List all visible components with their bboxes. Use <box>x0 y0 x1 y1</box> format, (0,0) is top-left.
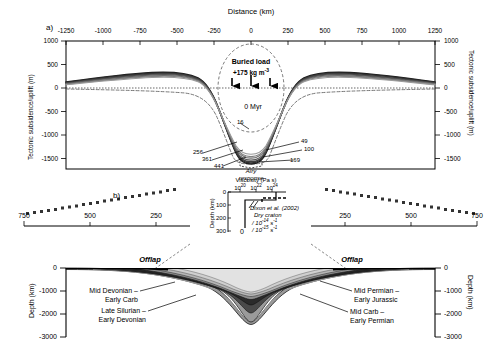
y-tick-label-left: -1500 <box>41 156 58 163</box>
y-tick-label-left: -500 <box>45 109 58 116</box>
inset-x-tick: 1024 <box>266 184 278 191</box>
curve-16myr <box>66 77 435 154</box>
inset-y-axis-title: Depth (km) <box>209 198 215 228</box>
unit-label-mid-carb-l2: Early Permian <box>350 317 394 324</box>
curve-361myr <box>66 73 435 163</box>
rate-unit-exp: -1 <box>273 225 277 230</box>
y-tick-label-left: 0 <box>54 85 58 92</box>
y-tick-label-left: 1000 <box>44 38 58 45</box>
time-label-361: 361 <box>202 156 212 162</box>
x-tick-label: -250 <box>207 28 220 35</box>
y-axis-title-right: Tectonic subsidence/uplift (m) <box>468 50 475 136</box>
curve-169myr <box>66 75 435 161</box>
y-axis-title-left: Tectonic subsidence/uplift (m) <box>28 74 35 160</box>
panel-b-tick-right: 250 <box>339 212 351 219</box>
x-tick-label: -500 <box>170 28 183 35</box>
panel-b-tick-left: 750 <box>18 212 30 219</box>
unit-label-late-silurian-l1: Late Silurian – <box>101 307 146 314</box>
panel-b-tick-right: 750 <box>471 212 483 219</box>
x-tick-label: 500 <box>320 28 331 35</box>
x-tick-label: 250 <box>283 28 294 35</box>
x-tick-label: 1250 <box>428 28 442 35</box>
panel-c-y-axis-title-right: Depth (km) <box>467 275 474 310</box>
y-tick-label-left: -1000 <box>41 132 58 139</box>
x-tick-label: 750 <box>357 28 368 35</box>
inset-tick-base: 10 <box>266 185 273 191</box>
y-tick-label-right: -500 <box>444 109 457 116</box>
x-tick-label: -1250 <box>58 28 75 35</box>
panel-c-y-tick: -3000 <box>39 333 57 340</box>
panel-b-tick-left: 500 <box>84 212 96 219</box>
panel-b-tick-right: 500 <box>405 212 417 219</box>
time-label-16: 16 <box>237 119 244 125</box>
time-label-256: 256 <box>193 149 203 155</box>
offlap-label-right: Offlap <box>341 256 363 264</box>
unit-label-mid-devonian-l2: Early Carb <box>105 296 138 303</box>
unit-label-mid-devonian-l1: Mid Devonian – <box>89 287 138 294</box>
y-tick-label-left: 500 <box>47 62 58 69</box>
offlap-label-left: Offlap <box>139 256 161 264</box>
inset-y-tick: 0 <box>223 189 226 195</box>
panel-c-y-tick-right: -3000 <box>444 333 462 340</box>
time-label-49: 49 <box>301 138 308 144</box>
curve-256myr <box>66 74 435 162</box>
x-tick-label: 1000 <box>392 28 406 35</box>
inset-x-tick: 1020 <box>234 184 246 191</box>
panel-c-y-tick-right: 0 <box>444 264 448 271</box>
inset-tick-base: 10 <box>234 185 241 191</box>
density-exponent: -3 <box>265 67 269 73</box>
time-label-441: 441 <box>214 163 224 169</box>
airy-response-line1: Airy <box>246 168 256 174</box>
panel-b-label: b) <box>113 192 120 200</box>
curve-49myr <box>66 76 435 156</box>
panel-c-y-tick: 0 <box>53 264 57 271</box>
x-tick-label: 0 <box>249 28 253 35</box>
inset-y-tick: 300 <box>216 228 226 234</box>
y-tick-label-right: 1000 <box>444 38 458 45</box>
unit-label-mid-permian-l1: Mid Permian – <box>354 287 399 294</box>
x-axis-title: Distance (km) <box>228 8 274 16</box>
panel-b-tick-left: 250 <box>150 212 162 219</box>
rate-unit-exp: -1 <box>273 218 277 223</box>
inset-tick-base: 10 <box>250 185 257 191</box>
x-tick-label: -1000 <box>95 28 112 35</box>
rate-base: / 10 <box>252 227 262 233</box>
unit-label-late-silurian-l2: Early Devonian <box>99 316 146 323</box>
panel-c-y-tick: -2000 <box>39 310 57 317</box>
inset-caption-source: Dixon et al. (2002) <box>250 205 299 211</box>
inset-tick-exp: 24 <box>273 183 278 188</box>
y-tick-label-right: -1500 <box>444 156 461 163</box>
panel-c-y-tick: -1000 <box>39 287 57 294</box>
inset-y-tick: 100 <box>216 202 226 208</box>
density-value: +175 kg m <box>233 69 265 76</box>
panel-c-y-tick-right: -2000 <box>444 310 462 317</box>
panel-c-y-tick-right: -1000 <box>444 287 462 294</box>
panel-a-label: a) <box>46 24 53 32</box>
curve-0myr <box>66 89 435 164</box>
x-tick-label: -750 <box>133 28 146 35</box>
buried-load-label: Buried load <box>232 58 271 65</box>
inset-tick-exp: 20 <box>241 183 246 188</box>
y-tick-label-right: -1000 <box>444 132 461 139</box>
panel-c-y-axis-title-left: Depth (km) <box>28 283 35 318</box>
inset-x-tick: 1022 <box>250 184 262 191</box>
time-label-100: 100 <box>304 146 314 152</box>
unit-label-mid-permian-l2: Early Jurassic <box>354 296 398 303</box>
inset-y-tick: 200 <box>216 215 226 221</box>
y-tick-label-right: 0 <box>444 85 448 92</box>
buried-load-density: +175 kg m-3 <box>233 68 269 77</box>
time-zero-label: 0 Myr <box>244 103 262 110</box>
inset-zero-mark: 0 <box>240 228 244 235</box>
time-label-169: 169 <box>290 157 300 163</box>
y-tick-label-right: 500 <box>444 62 455 69</box>
figure-root: Distance (km) a) b) -1250 -1000 -750 -50… <box>0 0 501 354</box>
inset-tick-exp: 22 <box>257 183 262 188</box>
panel-link-dashed <box>153 244 348 270</box>
inset-caption-rate-2: / 10-15 s-1 <box>252 226 277 233</box>
unit-label-mid-carb-l1: Mid Carb – <box>350 308 384 315</box>
